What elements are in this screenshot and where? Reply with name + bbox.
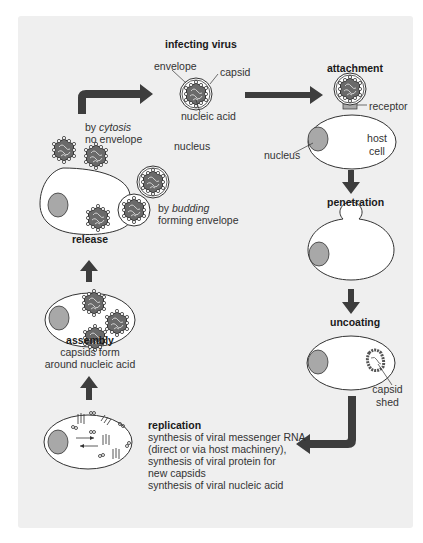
replication-cell — [44, 412, 132, 470]
arrow-replication-to-assembly — [80, 376, 98, 400]
host-cell-label-line1: host — [362, 132, 392, 144]
penetration-cell — [308, 202, 394, 280]
arrow-uncoating-to-replication — [296, 396, 356, 454]
receptor-label: receptor — [369, 100, 408, 112]
replication-line-1: synthesis of viral messenger RNA — [148, 431, 306, 443]
arrow-assembly-to-release — [80, 260, 98, 282]
budding-label-line1: by budding — [158, 202, 209, 214]
infecting-virus-icon — [180, 78, 212, 110]
uncoating-cell — [307, 336, 395, 390]
release-cell — [40, 136, 169, 234]
infecting-virus-title: infecting virus — [165, 38, 237, 50]
attachment-nucleus-label: nucleus — [264, 149, 300, 161]
capsid-shed-line1: capsid — [370, 383, 405, 395]
budding-label-line2: forming envelope — [158, 214, 239, 226]
arrow-release-to-infecting — [78, 84, 153, 114]
attachment-title: attachment — [327, 62, 383, 74]
arrow-attachment-to-penetration — [342, 170, 360, 194]
replication-title: replication — [148, 419, 201, 431]
cytosis-label-line1: by cytosis — [85, 121, 131, 133]
arrow-penetration-to-uncoating — [342, 289, 360, 314]
uncoating-title: uncoating — [330, 316, 380, 328]
host-cell-label-line2: cell — [362, 145, 392, 157]
cytosis-label-line2: no envelope — [85, 133, 142, 145]
envelope-label: envelope — [154, 60, 197, 72]
assembly-line-2: around nucleic acid — [30, 358, 150, 370]
assembly-title: assembly — [40, 334, 140, 346]
replication-line-5: synthesis of viral nucleic acid — [148, 479, 283, 491]
nucleus-floating-label: nucleus — [174, 140, 210, 152]
replication-line-3: synthesis of viral protein for — [148, 455, 276, 467]
capsid-label: capsid — [220, 66, 250, 78]
replication-line-4: new capsids — [148, 467, 206, 479]
nucleic-acid-label: nucleic acid — [181, 110, 236, 122]
penetration-title: penetration — [327, 196, 384, 208]
capsid-shed-line2: shed — [370, 396, 405, 408]
release-title: release — [40, 233, 140, 245]
arrow-infecting-to-attachment — [245, 86, 323, 104]
replication-line-2: (direct or via host machinery), — [148, 443, 286, 455]
assembly-line-1: capsids form — [30, 346, 150, 358]
